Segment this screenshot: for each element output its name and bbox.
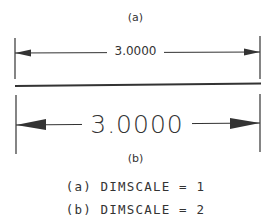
- caption-a: (a): [0, 11, 271, 24]
- dimension-text-b: 3.0000: [82, 110, 192, 139]
- arrowhead-left-b: [16, 119, 46, 130]
- arrowhead-right-a: [244, 49, 260, 56]
- arrowhead-right-b: [230, 118, 260, 129]
- dimension-text-a: 3.0000: [107, 44, 164, 58]
- separator-line: [15, 84, 261, 87]
- caption-b: (b): [0, 152, 271, 165]
- note-dimscale-b: (b) DIMSCALE = 2: [0, 202, 271, 217]
- arrowhead-left-a: [15, 50, 31, 57]
- note-dimscale-a: (a) DIMSCALE = 1: [0, 179, 271, 194]
